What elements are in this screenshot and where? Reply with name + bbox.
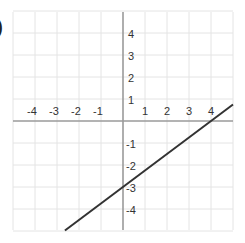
- x-tick-label: 1: [142, 105, 148, 117]
- x-tick-label: -4: [27, 105, 37, 117]
- x-tick-label: 2: [164, 105, 170, 117]
- problem-marker: ): [0, 15, 4, 40]
- y-tick-label: -4: [126, 204, 136, 216]
- x-tick-label: -1: [93, 105, 103, 117]
- y-tick-label: 1: [128, 94, 134, 106]
- y-tick-label: 4: [128, 28, 134, 40]
- x-tick-label: -3: [49, 105, 59, 117]
- y-tick-label: -2: [126, 160, 136, 172]
- y-tick-label: 2: [128, 72, 134, 84]
- x-tick-label: 3: [186, 105, 192, 117]
- y-tick-label: -1: [126, 138, 136, 150]
- x-tick-label: 4: [208, 105, 214, 117]
- y-tick-label: 3: [128, 50, 134, 62]
- plotted-line: [65, 105, 233, 231]
- coordinate-plane: -4-3-2-112344321-1-2-3-4: [0, 0, 245, 243]
- graph-figure: ) -4-3-2-112344321-1-2-3-4: [0, 0, 245, 243]
- x-tick-label: -2: [71, 105, 81, 117]
